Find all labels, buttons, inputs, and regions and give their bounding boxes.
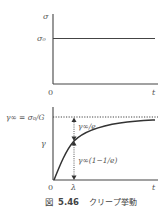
stress-origin-label: 0 — [48, 88, 53, 97]
creep-diagram: σ σ₀ 0 t γ∞ = σ₀/G γ γ∞/e γ∞(1−1/e) 0 λ … — [0, 0, 167, 221]
lambda-label: λ — [70, 183, 76, 192]
lower-arrow-down-icon — [72, 176, 77, 181]
upper-arrow-up-icon — [72, 118, 77, 123]
creep-curve — [54, 120, 155, 180]
caption-text: クリープ挙動 — [89, 197, 137, 207]
lower-gap-label: γ∞(1−1/e) — [78, 156, 117, 165]
stress-level-label: σ₀ — [37, 34, 46, 43]
upper-gap-label: γ∞/e — [78, 122, 96, 131]
figure-caption: 図 5.46 クリープ挙動 — [45, 197, 137, 207]
stress-x-label: t — [152, 88, 156, 97]
stress-y-label: σ — [43, 12, 49, 21]
stress-panel: σ σ₀ 0 t — [37, 12, 158, 97]
asymptote-label: γ∞ = σ₀/G — [6, 113, 44, 122]
strain-y-label: γ — [41, 139, 46, 148]
strain-origin-label: 0 — [48, 183, 53, 192]
caption-number: 5.46 — [58, 197, 79, 207]
caption-prefix: 図 — [45, 197, 54, 207]
strain-panel: γ∞ = σ₀/G γ γ∞/e γ∞(1−1/e) 0 λ t — [6, 107, 158, 192]
strain-x-label: t — [152, 183, 156, 192]
